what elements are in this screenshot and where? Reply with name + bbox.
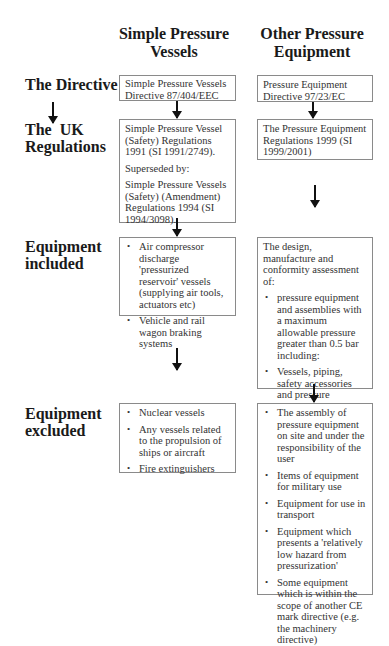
column-header-other-pressure-equipment: Other Pressure Equipment [250,25,374,61]
column-header-simple-pressure-vessels: Simple Pressure Vessels [112,25,236,61]
list-item: pressure equipment and assemblies with a… [263,292,367,361]
column-header-line: Vessels [112,43,236,61]
box-text: Directive 87/404/EEC [125,90,230,102]
box-text: The Pressure Equipment Regulations 1999 … [263,123,367,158]
simple-directive-box: Simple Pressure Vessels Directive 87/404… [119,75,236,101]
down-arrow-icon [176,218,178,236]
other-excluded-list: The assembly of pressure equipment on si… [263,407,367,646]
list-item: The assembly of pressure equipment on si… [263,407,367,465]
row-label-line: excluded [25,422,101,439]
column-header-line: Equipment [250,43,374,61]
row-label-line: Regulations [25,138,106,155]
simple-included-list: Air compressor discharge 'pressurized re… [125,241,230,350]
simple-excluded-box: Nuclear vessels Any vessels related to t… [119,403,236,473]
down-arrow-icon [52,102,54,123]
box-text: Simple Pressure Vessel (Safety) Regulati… [125,123,230,158]
other-included-box: The design, manufacture and conformity a… [257,237,373,389]
list-item: Equipment for use in transport [263,498,367,521]
column-header-line: Other Pressure [250,25,374,43]
list-item: Items of equipment for military use [263,470,367,493]
column-header-line: Simple Pressure [112,25,236,43]
box-text: The design, manufacture and conformity a… [263,241,367,287]
list-item: Equipment which presents a 'relatively l… [263,526,367,572]
box-text: Pressure Equipment [263,79,367,91]
simple-included-box: Air compressor discharge 'pressurized re… [119,237,236,316]
row-label-line: included [25,255,101,272]
box-text: Simple Pressure Vessels [125,78,230,90]
row-label-line: Equipment [25,238,101,255]
list-item: Vehicle and rail wagon braking systems [125,315,230,350]
row-label-line: The UK [25,121,106,138]
row-label-equipment-included: Equipment included [25,238,101,272]
list-item: Nuclear vessels [125,407,230,419]
other-directive-box: Pressure Equipment Directive 97/23/EC [257,75,373,102]
simple-excluded-list: Nuclear vessels Any vessels related to t… [125,407,230,475]
list-item: Air compressor discharge 'pressurized re… [125,241,230,310]
down-arrow-icon [314,185,316,207]
row-label-uk-regulations: The UK Regulations [25,121,106,155]
simple-regulations-box: Simple Pressure Vessel (Safety) Regulati… [119,119,236,223]
down-arrow-icon [176,101,178,118]
down-arrow-icon [176,348,178,370]
row-label-line: Equipment [25,405,101,422]
list-item: Any vessels related to the propulsion of… [125,424,230,459]
box-text: Directive 97/23/EC [263,91,367,103]
row-label-equipment-excluded: Equipment excluded [25,405,101,439]
list-item: Fire extinguishers [125,463,230,475]
row-label-the-directive: The Directive [25,76,118,93]
other-excluded-box: The assembly of pressure equipment on si… [257,403,373,595]
other-regulations-box: The Pressure Equipment Regulations 1999 … [257,119,373,160]
box-text: Superseded by: [125,163,230,175]
down-arrow-icon [313,384,315,402]
list-item: Some equipment which is within the scope… [263,577,367,646]
down-arrow-icon [312,102,314,118]
